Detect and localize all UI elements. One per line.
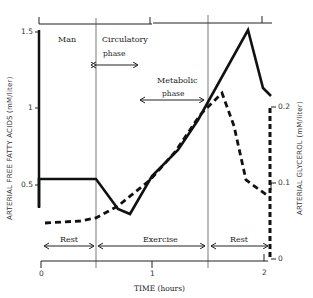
y-left-tick-1: 1 [28,104,33,112]
label-rest-1: Rest [60,236,78,244]
x-axis [41,254,268,268]
label-rest-2: Rest [230,236,248,244]
y-axis-title-left: ARTERIAL FREE FATTY ACIDS (mM/liter) [7,76,14,220]
label-circulatory: Circulatory [102,36,148,44]
label-metabolic-phase: phase [162,90,184,98]
y-right-tick-0: 0 [278,255,283,263]
label-exercise: Exercise [143,236,178,244]
top-border [39,16,272,24]
y-axis-title-right: ARTERIAL GLYCEROL (mM/liter) [297,101,304,215]
label-circulatory-phase: phase [103,50,125,58]
x-tick-1: 1 [150,270,155,278]
arrow-head-left [91,62,96,68]
x-tick-0: 0 [39,270,44,278]
chart-canvas [0,0,313,298]
x-tick-2: 2 [262,269,267,277]
series-glycerol [45,93,268,223]
series-free-fatty-acids [39,30,271,214]
label-man: Man [58,36,76,44]
y-left-tick-1.5: 1.5 [21,28,33,36]
label-metabolic: Metabolic [157,77,197,85]
y-right-tick-0.1: 0.1 [278,179,290,187]
y-right-tick-0.2: 0.2 [278,103,290,111]
y-left-tick-0.5: 0.5 [21,181,33,189]
right-y-axis [271,107,276,259]
x-axis-title: TIME (hours) [134,285,185,293]
